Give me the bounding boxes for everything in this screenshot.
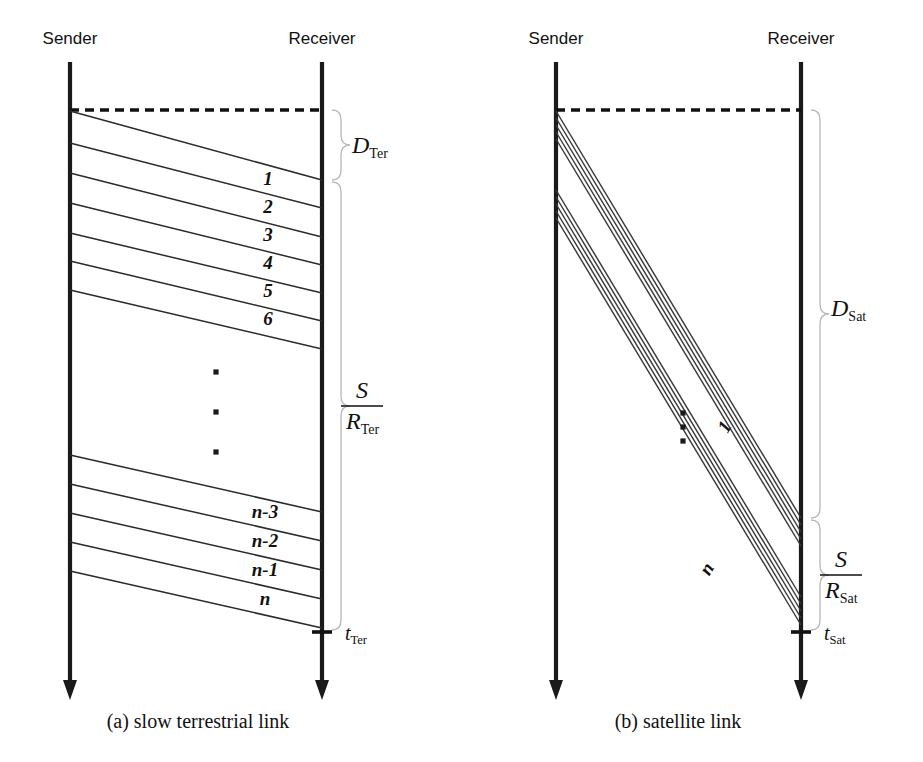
packet-line <box>70 484 322 541</box>
fraction-numerator: S <box>835 546 847 572</box>
sender-label: Sender <box>43 29 98 48</box>
ellipsis-dot <box>213 449 218 454</box>
rate-symbol: R <box>345 408 361 434</box>
propagation-delay-brace-label: DSat <box>830 295 866 324</box>
sender-axis-arrowhead-icon <box>549 680 563 700</box>
packet-line <box>556 125 801 532</box>
arrival-time-subscript: Sat <box>830 633 847 647</box>
packet-label: n <box>695 559 718 579</box>
delay-symbol: D <box>830 295 848 321</box>
packet-label: 2 <box>262 196 273 217</box>
receiver-label: Receiver <box>767 29 834 48</box>
panel-caption: (a) slow terrestrial link <box>107 710 290 733</box>
packet-label: 5 <box>263 280 273 301</box>
packet-label: 4 <box>262 252 273 273</box>
delay-subscript: Ter <box>369 146 388 161</box>
sender-timeline: Sender <box>43 29 98 700</box>
packet-line <box>556 139 801 546</box>
sender-axis-arrowhead-icon <box>63 680 77 700</box>
panel-satellite: SenderReceiver1ntSatDSatSRSat(b) satelli… <box>529 29 867 733</box>
packet-line <box>556 111 801 518</box>
ellipsis-dot <box>213 369 218 374</box>
ellipsis-dot <box>680 424 685 429</box>
arrival-time-label: tSat <box>824 622 846 647</box>
packet-label: n-3 <box>252 501 278 522</box>
packet-line <box>70 513 322 570</box>
packet-line <box>70 290 322 349</box>
packet-line <box>70 261 322 321</box>
packet-label: n-1 <box>252 559 278 580</box>
packet-line <box>70 542 322 599</box>
ellipsis-dot <box>680 410 685 415</box>
packet-label: 6 <box>263 308 273 329</box>
packet-label: 1 <box>263 168 273 189</box>
packet-line <box>70 173 322 237</box>
packet-line <box>556 211 801 618</box>
transmission-time-brace-label: SRSat <box>820 546 862 606</box>
packet-line <box>70 571 322 628</box>
sender-timeline: Sender <box>529 29 584 700</box>
packet-label: n-2 <box>252 530 279 551</box>
panel-terrestrial: SenderReceiver123456n-3n-2n-1ntTerDTerSR… <box>43 29 389 733</box>
delay-subscript: Sat <box>848 309 866 324</box>
timing-diagram-svg: SenderReceiver123456n-3n-2n-1ntTerDTerSR… <box>0 0 923 762</box>
packet-line <box>556 218 801 625</box>
propagation-delay-brace <box>811 110 829 518</box>
figure-container: SenderReceiver123456n-3n-2n-1ntTerDTerSR… <box>0 0 923 762</box>
propagation-delay-brace <box>332 110 350 180</box>
rate-symbol: R <box>824 577 840 603</box>
packet-line <box>70 203 322 265</box>
fraction-numerator: S <box>356 377 368 403</box>
sender-label: Sender <box>529 29 584 48</box>
packet-line <box>556 197 801 604</box>
receiver-axis-arrowhead-icon <box>315 680 329 700</box>
panel-caption: (b) satellite link <box>615 710 742 733</box>
packet-label: n <box>260 588 271 609</box>
packet-line <box>70 111 322 180</box>
propagation-delay-brace-label: DTer <box>351 132 388 161</box>
rate-subscript: Sat <box>840 591 858 606</box>
packet-line <box>556 118 801 525</box>
packet-line <box>70 455 322 512</box>
packet-label: 3 <box>262 224 273 245</box>
receiver-axis-arrowhead-icon <box>794 680 808 700</box>
rate-subscript: Ter <box>361 422 380 437</box>
packet-line <box>556 204 801 611</box>
first-packet-bundle <box>556 111 801 546</box>
receiver-label: Receiver <box>288 29 355 48</box>
ellipsis-dot <box>680 438 685 443</box>
receiver-timeline: Receiver <box>288 29 355 700</box>
fraction-denominator: RSat <box>824 577 858 606</box>
arrival-time-label: tTer <box>345 622 368 647</box>
packet-line <box>70 143 322 208</box>
fraction-denominator: RTer <box>345 408 379 437</box>
panels-group: SenderReceiver123456n-3n-2n-1ntTerDTerSR… <box>43 29 867 733</box>
packet-line <box>556 132 801 539</box>
arrival-time-subscript: Ter <box>351 633 368 647</box>
transmission-time-brace-label: SRTer <box>341 377 383 437</box>
delay-symbol: D <box>351 132 369 158</box>
last-packet-bundle <box>556 190 801 625</box>
ellipsis-dot <box>213 409 218 414</box>
packet-line <box>556 190 801 597</box>
packet-line <box>70 233 322 293</box>
